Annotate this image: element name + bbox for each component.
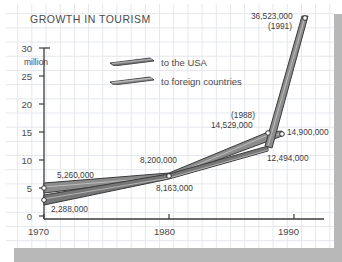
label-foreign-1970: 5,260,000 — [57, 171, 94, 180]
label-peak-year: (1991) — [268, 22, 292, 31]
label-usa-1970: 2,288,000 — [51, 205, 88, 214]
label-foreign-final: 14,900,000 — [287, 128, 329, 137]
label-mid-year: (1988) — [231, 111, 255, 120]
chart-screenshot: GROWTH IN TOURISM million 30 25 20 15 10… — [0, 0, 342, 262]
x-axis-ticks — [44, 214, 294, 219]
y-axis-ticks — [39, 48, 44, 216]
chart-card: GROWTH IN TOURISM million 30 25 20 15 10… — [6, 4, 334, 248]
label-peak-value: 36,523,000 — [251, 12, 293, 21]
label-usa-1980: 8,163,000 — [156, 184, 193, 193]
label-foreign-1980: 8,200,000 — [140, 156, 177, 165]
label-usa-1988: 12,494,000 — [267, 154, 309, 163]
label-foreign-1988: 14,529,000 — [211, 121, 253, 130]
